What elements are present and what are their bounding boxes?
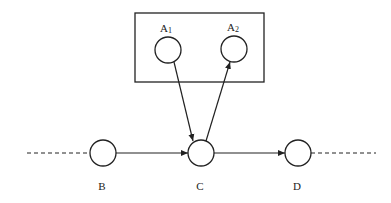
label-b: B	[98, 180, 105, 192]
label-a2: A2	[227, 21, 239, 34]
label-a1: A1	[160, 22, 172, 35]
edge-a1-to-c	[174, 62, 193, 141]
diagram-canvas	[0, 0, 391, 203]
label-c: C	[196, 180, 203, 192]
node-d	[285, 140, 311, 166]
label-d: D	[293, 180, 301, 192]
node-b	[90, 140, 116, 166]
node-c	[188, 140, 214, 166]
node-a1	[155, 37, 181, 63]
node-a2	[221, 36, 247, 62]
edge-c-to-a2	[206, 62, 230, 141]
